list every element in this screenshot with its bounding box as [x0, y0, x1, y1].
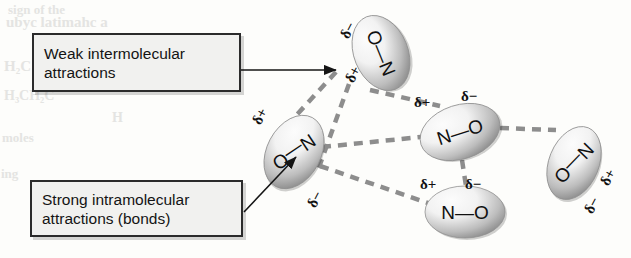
weak-intermolecular-callout: Weak intermolecular attractions — [32, 33, 241, 92]
partial-charge-label: δ+ — [420, 176, 436, 193]
strong-intramolecular-callout: Strong intramolecular attractions (bonds… — [30, 180, 243, 237]
partial-charge-label: δ− — [461, 88, 477, 105]
partial-charge-label: δ− — [465, 176, 481, 193]
figure-canvas: sign of theubyc latimahc aH₂C CH₃ C(CH₃)… — [0, 0, 631, 258]
callout-text: Strong intramolecular attractions (bonds… — [42, 190, 189, 228]
strong-bond-pointer — [244, 157, 296, 212]
callout-text: Weak intermolecular attractions — [44, 44, 185, 82]
partial-charge-label: δ+ — [414, 94, 430, 111]
